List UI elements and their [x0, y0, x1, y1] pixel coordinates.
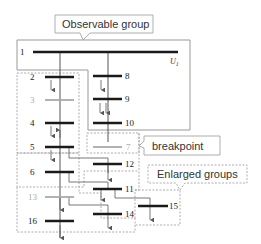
bus-label-14: 14: [125, 209, 135, 219]
bus-label-11: 11: [125, 184, 134, 194]
enlarged-group-box-left: [17, 73, 79, 153]
observable-group-box: [17, 40, 190, 130]
bus-label-6: 6: [30, 167, 35, 177]
bus-label-7: 7: [126, 142, 131, 152]
bus-label-13: 13: [28, 192, 38, 202]
bus-label-3: 3: [30, 95, 35, 105]
bus-label-16: 16: [28, 216, 38, 226]
bus-label-10: 10: [125, 118, 135, 128]
observable-callout-text: Observable group: [62, 18, 149, 30]
bus-label-9: 9: [125, 94, 130, 104]
bus-label-1: 1: [20, 47, 25, 57]
breakpoint-callout-text: breakpoint: [152, 140, 203, 152]
enlarged-callout-text: Enlarged groups: [157, 168, 238, 180]
bus-label-5: 5: [30, 142, 35, 152]
bus-label-4: 4: [30, 118, 35, 128]
distribution-network-diagram: 1 2 3 4 5 6 13 16 8 9 10 7 12 11 14 15 U…: [0, 0, 261, 244]
bus-label-15: 15: [169, 201, 179, 211]
bus-label-2: 2: [30, 72, 35, 82]
bus-label-12: 12: [125, 159, 134, 169]
breakpoint-box: [87, 133, 139, 153]
bus-label-8: 8: [125, 71, 130, 81]
voltage-label: U1: [170, 57, 179, 67]
